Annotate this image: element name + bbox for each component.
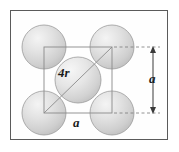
- figure-container: 4r a a: [0, 0, 179, 152]
- horizontal-edge-length-label: a: [73, 116, 80, 129]
- vertical-edge-length-label: a: [149, 72, 156, 85]
- diagonal-length-label: 4r: [58, 66, 70, 79]
